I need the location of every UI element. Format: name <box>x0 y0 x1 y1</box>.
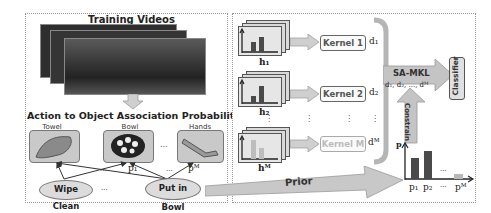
prior-label: Prior <box>285 175 313 188</box>
feature-arrow-M <box>290 136 320 152</box>
kernel-2-box: Kernel 2 <box>320 86 366 102</box>
edge-dots-1: ... <box>100 165 107 173</box>
histogram-h2 <box>238 77 282 107</box>
histogram-h1 <box>238 26 282 56</box>
action-wipe-clean: Wipe Clean <box>39 180 93 200</box>
prior-chart-y-label: p <box>396 139 402 149</box>
vdots-3: ⋮ <box>345 114 353 123</box>
edge-label-p1: p₁ <box>128 163 137 173</box>
prior-x-label-p2: p₂ <box>423 182 432 192</box>
kernel-M-box: Kernel M <box>320 136 366 152</box>
action-put-in-bowl: Put in Bowl <box>145 178 201 200</box>
vdots-2: ⋮ <box>305 114 313 123</box>
constrain-label: Constrain <box>403 103 411 141</box>
prior-chart-dots: ... <box>440 165 447 173</box>
prior-x-label-dots: ... <box>440 181 447 189</box>
prior-x-label-p1: p₁ <box>409 182 418 192</box>
feature-arrow-2 <box>290 86 320 102</box>
prior-bar-chart <box>398 140 478 184</box>
action-ellipsis: ... <box>101 184 108 192</box>
feature-arrow-1 <box>290 34 320 50</box>
edge-dots-2: ... <box>166 165 173 173</box>
kernel-1-box: Kernel 1 <box>320 35 366 51</box>
prior-x-label-pM: pᴹ <box>455 182 467 192</box>
classifier-label: Classifier <box>451 56 460 96</box>
vdots-1: ⋮ <box>265 114 273 123</box>
association-edges <box>0 0 230 213</box>
sa-mkl-label: SA-MKL <box>393 68 430 78</box>
feature-label-h1: h₁ <box>259 57 270 67</box>
histogram-hM <box>238 133 282 163</box>
classifier-box: Classifier <box>449 57 465 100</box>
edge-label-pM: pᴹ <box>188 163 200 173</box>
